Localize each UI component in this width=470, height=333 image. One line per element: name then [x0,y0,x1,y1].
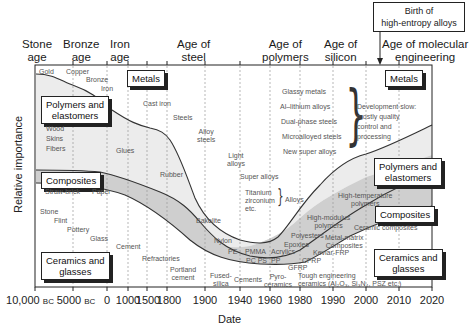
label-flint: Flint [54,217,67,225]
label-stone: Stone [40,208,58,216]
label-line: cement [170,274,196,282]
era-line: Bronze [63,38,99,51]
label-line: Alloy [197,128,215,136]
label-kevlar: Kevlar-FRP [313,249,349,257]
label-cfrp: CFRP [302,257,321,265]
label-glass: Glass [90,235,108,243]
label-fused-silica: Fused-silica [210,272,232,288]
metals-box-right: Metals [385,70,423,87]
x-axis-label: Date [218,313,241,325]
box-line: elastomers [379,172,437,183]
label-line: Fused- [210,272,232,280]
label-development-slow: Development slow:mostly qualitycontrol a… [357,102,416,142]
label-epoxies: Epoxies [284,241,309,249]
label-line: High-modulus [307,214,350,222]
label-straw-brick: Straw-brick [45,188,80,196]
label-line: Development slow: [357,102,416,112]
label-pc-ps: PC PS [246,257,267,265]
era-line: Age of [177,38,210,51]
era-silicon: Age ofsilicon [324,38,357,64]
label-line: control and [357,122,416,132]
label-alloys: Alloys [285,196,304,204]
birth-hea-box: Birth ofhigh-entropy alloys [373,2,465,32]
label-line: Metal-matrix [325,234,364,242]
box-line: Ceramics and [379,252,438,263]
polymers-box-left: Polymers andelastomers [41,96,109,124]
era-steel: Age ofsteel [177,38,210,64]
label-line: mostly quality [357,112,416,122]
era-line: silicon [324,51,357,64]
tick-value: 5000 [57,294,81,306]
tick-5000bc: 5000 BC [57,294,96,306]
tick-1990: 1990 [321,294,345,306]
label-fibers: Fibers [46,145,65,153]
tick-1980: 1980 [288,294,312,306]
tick-1800: 1800 [157,294,181,306]
era-bronze: Bronzeage [63,38,99,64]
box-line: elastomers [46,110,104,121]
label-tough-ceramics: Tough engineeringceramics (Al₂O₃, Si₃N₄,… [298,272,401,288]
label-metal-matrix: Metal-matrixComposites [325,234,364,250]
era-line: Age of [324,38,357,51]
brace-icon: } [277,186,283,206]
era-line: Age of molecular [382,38,468,51]
tick-0: 0 [104,294,110,306]
label-line: ceramics [264,281,292,289]
tick-1900: 1900 [193,294,217,306]
era-line: age [110,51,130,64]
label-cast-iron: Cast iron [143,100,171,108]
box-line: Polymers and [46,99,104,110]
tick-value: 10,000 [6,294,40,306]
label-pe: PE [228,248,237,256]
label-line: steels [197,136,215,144]
ceramics-box-left: Ceramics andglasses [41,252,110,280]
label-bakelite: Bakelite [196,217,221,225]
label-gold: Gold [39,68,54,76]
label-skins: Skins [46,135,63,143]
label-cement: Cement [116,243,141,251]
label-gfrp: GFRP [288,264,307,272]
tick-suffix: BC [84,297,95,306]
label-paper: Paper [92,188,111,196]
era-line: age [22,51,52,64]
tick-suffix: BC [43,297,54,306]
era-molecular: Age of molecularengineering [382,38,468,64]
era-line: Iron [110,38,130,51]
polymers-box-right: Polymers andelastomers [374,158,442,186]
label-high-modulus: High-moduluspolymers [307,214,350,230]
label-nylon: Nylon [214,237,232,245]
era-line: age [63,51,99,64]
label-cements: Cements [234,276,262,284]
box-line: glasses [46,266,105,277]
label-super-alloys: Super alloys [240,173,279,181]
label-copper: Copper [66,68,89,76]
label-pottery: Pottery [67,226,89,234]
label-steels: Steels [173,114,192,122]
tick-2020: 2020 [420,294,444,306]
label-microalloyed: Microalloyed steels [282,133,342,141]
label-line: polymers [307,222,350,230]
label-acrylics: Acrylics [271,248,295,256]
label-line: Titanium [245,189,275,197]
era-stone: Stoneage [22,38,52,64]
composites-box-left: Composites [41,172,101,189]
label-refractories: Refractories [142,255,180,263]
era-line: engineering [382,51,468,64]
y-axis-label: Relative importance [12,123,24,213]
label-line: High-temperature [338,192,392,200]
label-line: polymers [338,200,392,208]
tick-2000: 2000 [354,294,378,306]
label-titanium: Titaniumzirconiumetc. [245,189,275,213]
era-iron: Ironage [110,38,130,64]
era-line: polymers [262,51,309,64]
label-iron: Iron [101,85,113,93]
label-alloy-steels: Alloysteels [197,128,215,144]
label-pyroceramics: Pyro-ceramics [264,273,292,289]
label-pp: PP [271,257,280,265]
label-new-super: New super alloys [283,148,336,156]
label-line: silica [210,280,232,288]
era-polymers: Age ofpolymers [262,38,309,64]
era-line: Stone [22,38,52,51]
birth-line: Birth of [374,5,464,17]
label-line: Pyro- [264,273,292,281]
